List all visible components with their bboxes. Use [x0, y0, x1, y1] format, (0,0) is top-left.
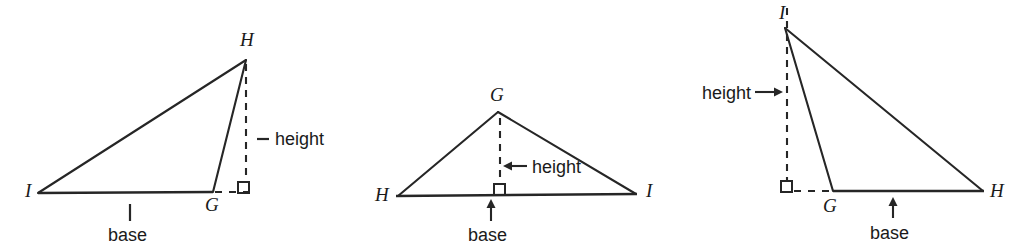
- triangles-svg: H I G height base G H I height base I G …: [0, 0, 1012, 249]
- triangle-2-vertex-label-H: H: [374, 184, 390, 205]
- triangle-1-base-line: [38, 192, 213, 193]
- triangle-3-base-arrow: [889, 197, 898, 218]
- triangle-3-side-IG: [785, 28, 833, 191]
- triangle-2-base-arrow: [487, 199, 496, 221]
- triangle-2-height-label: height: [532, 157, 581, 177]
- triangle-2-base-label: base: [468, 225, 507, 245]
- triangle-1-base-label: base: [108, 225, 147, 245]
- triangle-2-side-HG: [398, 112, 498, 196]
- triangle-2-height-arrow: [503, 162, 527, 171]
- triangle-3-vertex-label-G: G: [823, 195, 837, 216]
- triangle-3-height-label: height: [702, 83, 751, 103]
- triangle-1-height-label: height: [275, 129, 324, 149]
- triangle-2-right-angle-marker: [494, 184, 505, 195]
- triangle-1-vertex-label-G: G: [205, 194, 219, 215]
- triangle-3-group: [755, 8, 984, 218]
- geometry-figure: H I G height base G H I height base I G …: [0, 0, 1012, 249]
- triangle-2-vertex-label-I: I: [645, 180, 654, 201]
- triangle-2-base-line: [396, 194, 637, 196]
- triangle-3-right-angle-marker: [781, 181, 792, 192]
- triangle-1-side-IH: [38, 60, 246, 193]
- triangle-2-side-GI: [498, 112, 636, 194]
- triangle-3-side-IH: [785, 28, 983, 191]
- triangle-2-vertex-label-G: G: [490, 84, 504, 105]
- triangle-1-vertex-label-H: H: [239, 29, 255, 50]
- triangle-1-vertex-label-I: I: [24, 180, 33, 201]
- triangle-1-side-HG: [213, 60, 246, 192]
- triangle-3-vertex-label-H: H: [989, 180, 1005, 201]
- triangle-3-base-label: base: [870, 223, 909, 243]
- triangle-1-group: [38, 60, 269, 221]
- triangle-2-group: [396, 112, 637, 221]
- triangle-3-height-arrow: [755, 88, 783, 97]
- triangle-3-vertex-label-I: I: [778, 2, 787, 23]
